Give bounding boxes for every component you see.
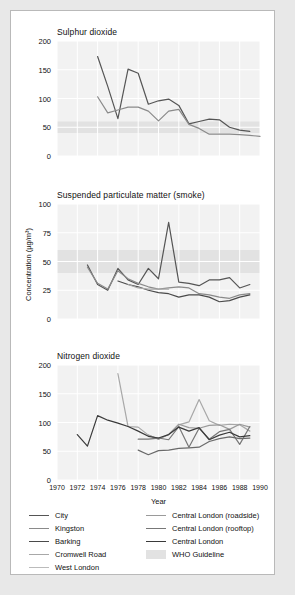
panel2-plot-svg (57, 204, 260, 319)
y-tick-label: 50 (25, 447, 51, 456)
y-tick-label: 150 (25, 389, 51, 398)
y-tick-label: 100 (25, 94, 51, 103)
legend-item[interactable]: Cromwell Road (29, 550, 106, 559)
legend-label: Cromwell Road (55, 550, 106, 559)
legend-label: Barking (55, 537, 80, 546)
legend-item[interactable]: WHO Guideline (146, 550, 224, 559)
legend-label: Central London (172, 537, 223, 546)
y-tick-label: 0 (25, 152, 51, 161)
legend-line-swatch (29, 528, 49, 529)
legend-item[interactable]: Central London (roadside) (146, 511, 259, 520)
legend-item[interactable]: Central London (rooftop) (146, 524, 254, 533)
legend-item[interactable]: West London (29, 563, 99, 572)
legend-item[interactable]: City (29, 511, 68, 520)
legend-line-swatch (29, 515, 49, 516)
panel-title-sulphur-dioxide: Sulphur dioxide (57, 27, 117, 37)
legend-label: Kingston (55, 524, 84, 533)
panel-title-nitrogen-dioxide: Nitrogen dioxide (57, 351, 120, 361)
panel1-plot-area (57, 41, 260, 156)
panel-suspended-particulate-matter: Suspended particulate matter (smoke) 025… (11, 181, 276, 346)
legend-line-swatch (146, 515, 166, 516)
y-tick-label: 100 (25, 418, 51, 427)
legend-band-swatch (146, 550, 166, 559)
legend-line-swatch (29, 554, 49, 555)
chart-card: Sulphur dioxide 050100150200 Suspended p… (10, 10, 275, 575)
panel1-plot-svg (57, 41, 260, 156)
y-tick-label: 150 (25, 65, 51, 74)
legend-line-swatch (29, 567, 49, 568)
series-line-barking (138, 437, 250, 455)
legend-label: West London (55, 563, 99, 572)
panel-nitrogen-dioxide: Nitrogen dioxide 050100150200 1970197219… (11, 346, 276, 511)
legend-line-swatch (146, 541, 166, 542)
panel-title-suspended-particulate-matter: Suspended particulate matter (smoke) (57, 190, 205, 200)
legend-item[interactable]: Kingston (29, 524, 84, 533)
x-axis-label: Year (57, 497, 260, 506)
y-tick-label: 200 (25, 37, 51, 46)
legend-label: City (55, 511, 68, 520)
y-tick-label: 0 (25, 315, 51, 324)
legend-label: WHO Guideline (172, 550, 224, 559)
legend-line-swatch (29, 541, 49, 542)
legend-line-swatch (146, 528, 166, 529)
legend-label: Central London (roadside) (172, 511, 259, 520)
chart-legend: CityKingstonBarkingCromwell RoadWest Lon… (11, 511, 276, 576)
series-line-city (98, 57, 250, 132)
panel2-plot-area (57, 204, 260, 319)
legend-item[interactable]: Barking (29, 537, 80, 546)
y-tick-label: 200 (25, 361, 51, 370)
panel3-plot-svg (57, 365, 260, 480)
y-tick-label: 100 (25, 200, 51, 209)
x-tick-label: 1990 (247, 484, 273, 491)
y-axis-label: Concentration (µg/m³) (24, 228, 33, 301)
panel-sulphur-dioxide: Sulphur dioxide 050100150200 (11, 11, 276, 181)
panel3-plot-area (57, 365, 260, 480)
legend-label: Central London (rooftop) (172, 524, 254, 533)
legend-item[interactable]: Central London (146, 537, 223, 546)
y-tick-label: 50 (25, 123, 51, 132)
